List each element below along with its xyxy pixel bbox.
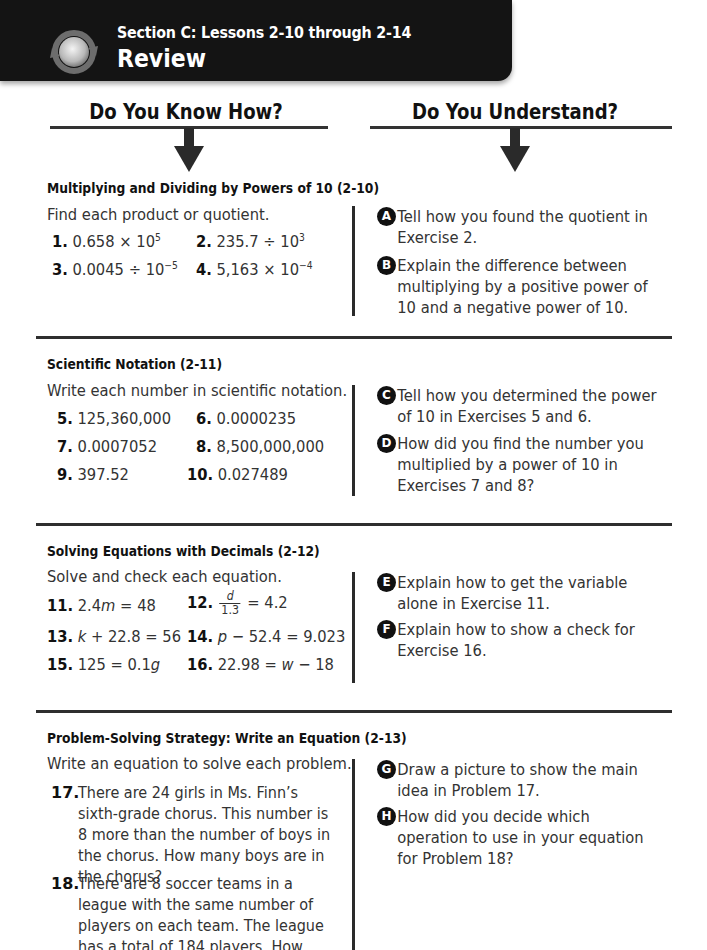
section-title-problem-solving: Problem-Solving Strategy: Write an Equat…	[47, 730, 407, 746]
section-divider	[36, 710, 672, 713]
exercise-5: 5.125,360,000	[57, 409, 171, 428]
question-d: D How did you find the number you multip…	[377, 433, 677, 496]
question-f: F Explain how to show a check for Exerci…	[377, 619, 677, 661]
instruction: Find each product or quotient.	[47, 205, 269, 224]
review-cycle-icon	[48, 26, 100, 78]
exercise-8: 8.8,500,000,000	[196, 437, 324, 456]
exercise-12: 12.d1.3 = 4.2	[187, 590, 288, 616]
section-label: Section C: Lessons 2-10 through 2-14	[117, 24, 411, 42]
column-separator	[352, 206, 355, 316]
column-heading-understand: Do You Understand?	[377, 100, 652, 124]
exercise-13: 13.k + 22.8 = 56	[47, 627, 181, 646]
question-a: A Tell how you found the quotient in Exe…	[377, 206, 677, 248]
page-title: Review	[117, 44, 206, 73]
exercise-7: 7.0.0007052	[57, 437, 157, 456]
down-arrow-icon	[174, 128, 204, 172]
section-divider	[36, 336, 672, 339]
column-heading-know-how: Do You Know How?	[57, 100, 315, 124]
question-h: H How did you decide which operation to …	[377, 806, 677, 869]
column-separator	[352, 385, 355, 496]
problem-17: 17. There are 24 girls in Ms. Finn’s six…	[51, 782, 351, 887]
exercise-4: 4.5,163 × 10−4	[196, 260, 313, 279]
instruction: Solve and check each equation.	[47, 567, 282, 586]
question-g: G Draw a picture to show the main idea i…	[377, 759, 677, 801]
exercise-9: 9.397.52	[57, 465, 129, 484]
column-separator	[352, 572, 355, 683]
question-b: B Explain the difference between multipl…	[377, 255, 677, 318]
column-separator	[352, 759, 355, 950]
section-title-powers-of-10: Multiplying and Dividing by Powers of 10…	[47, 180, 379, 196]
question-e: E Explain how to get the variable alone …	[377, 572, 677, 614]
exercise-2: 2.235.7 ÷ 103	[196, 232, 305, 251]
section-title-solving-equations: Solving Equations with Decimals (2-12)	[47, 543, 320, 559]
exercise-1: 1.0.658 × 105	[52, 232, 161, 251]
problem-18: 18. There are 8 soccer teams in a league…	[51, 873, 351, 950]
exercise-16: 16.22.98 = w − 18	[187, 655, 334, 674]
exercise-3: 3.0.0045 ÷ 10−5	[52, 260, 178, 279]
exercise-10: 10.0.027489	[187, 465, 288, 484]
instruction: Write an equation to solve each problem.	[47, 754, 352, 773]
instruction: Write each number in scientific notation…	[47, 381, 347, 400]
fraction: d1.3	[220, 590, 241, 616]
section-title-scientific-notation: Scientific Notation (2-11)	[47, 356, 222, 372]
exercise-15: 15.125 = 0.1g	[47, 655, 160, 674]
section-divider	[36, 523, 672, 526]
section-banner: Section C: Lessons 2-10 through 2-14 Rev…	[0, 0, 512, 81]
exercise-11: 11.2.4m = 48	[47, 596, 156, 615]
exercise-14: 14.p − 52.4 = 9.023	[187, 627, 345, 646]
question-c: C Tell how you determined the power of 1…	[377, 385, 677, 427]
down-arrow-icon	[500, 128, 530, 172]
exercise-6: 6.0.0000235	[196, 409, 296, 428]
